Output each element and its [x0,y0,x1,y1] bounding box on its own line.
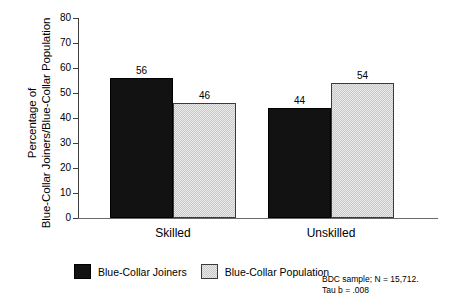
y-tick-mark [73,168,78,169]
bar-skilled-population[interactable]: 46 [173,103,236,218]
x-category-label-unskilled: Unskilled [268,226,394,240]
x-axis-line [78,218,438,219]
legend-swatch-icon [201,264,218,279]
y-tick-mark [73,93,78,94]
y-tick-mark [73,18,78,19]
legend-item-blue-collar-population[interactable]: Blue-Collar Population [201,264,329,279]
y-tick-mark [73,118,78,119]
y-tick-label: 10 [60,187,71,198]
chart-legend: Blue-Collar Joiners Blue-Collar Populati… [74,264,329,279]
plot-area: 80 70 60 50 40 30 20 10 [78,18,396,218]
x-category-label-skilled: Skilled [110,226,236,240]
y-axis-title-line-2: Blue-Collar Joiners/Blue-Collar Populati… [39,18,53,229]
bar-skilled-joiners[interactable]: 56 [110,78,173,218]
y-tick-label: 60 [60,62,71,73]
y-tick-label: 50 [60,87,71,98]
y-tick-label: 30 [60,137,71,148]
footnote-line-1: BDC sample; N = 15,712. [322,274,419,285]
y-tick-label: 0 [65,212,71,223]
bar-chart-figure: Percentage of Blue-Collar Joiners/Blue-C… [0,0,458,307]
footnote-line-2: Tau b = .008 [322,285,419,296]
y-axis-title: Percentage of Blue-Collar Joiners/Blue-C… [20,8,58,238]
legend-item-label: Blue-Collar Joiners [98,266,187,278]
bar-value-label: 56 [111,65,172,76]
legend-item-label: Blue-Collar Population [225,266,329,278]
bar-value-label: 54 [332,70,393,81]
y-tick-mark [73,218,78,219]
y-tick-label: 40 [60,112,71,123]
legend-swatch-icon [74,264,91,279]
bar-value-label: 46 [174,90,235,101]
bar-value-label: 44 [269,95,330,106]
y-tick-mark [73,143,78,144]
y-axis-title-line-1: Percentage of [25,88,39,158]
y-tick-mark [73,193,78,194]
bar-unskilled-population[interactable]: 54 [331,83,394,218]
y-tick-mark [73,43,78,44]
y-tick-label: 20 [60,162,71,173]
legend-item-blue-collar-joiners[interactable]: Blue-Collar Joiners [74,264,187,279]
bar-unskilled-joiners[interactable]: 44 [268,108,331,218]
y-tick-mark [73,68,78,69]
y-tick-label: 80 [60,12,71,23]
y-tick-label: 70 [60,37,71,48]
chart-footnote: BDC sample; N = 15,712. Tau b = .008 [322,274,419,296]
